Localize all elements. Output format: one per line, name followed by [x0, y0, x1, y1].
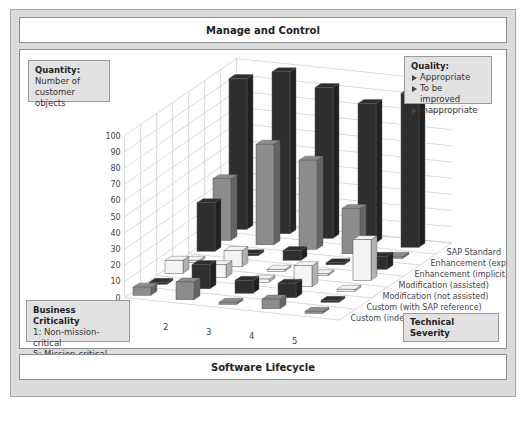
bars: [133, 68, 425, 314]
technical-severity-box: Technical Severity: [403, 313, 499, 342]
criticality-line1: 1: Non-mission-critical: [33, 327, 123, 349]
technical-severity-label: Technical Severity: [410, 317, 492, 339]
bar: [321, 296, 345, 302]
footer-title: Software Lifecycle: [211, 362, 315, 373]
y-tick-label: 10: [111, 277, 121, 286]
y-tick-label: 40: [111, 229, 121, 238]
y-tick-label: 20: [111, 261, 121, 270]
y-tick-label: 30: [111, 245, 121, 254]
quantity-line1: Number of: [35, 76, 103, 87]
bar: [283, 247, 307, 261]
series-label: Modification (assisted): [399, 281, 489, 290]
bar: [133, 283, 157, 295]
software-lifecycle-band: Software Lifecycle: [19, 354, 507, 380]
bar: [176, 278, 200, 300]
y-tick-label: 80: [111, 164, 121, 173]
quality-legend-box: Quality: Appropriate To be improved Inap…: [404, 56, 492, 104]
diagram-frame: Manage and Control 010203040506070809010…: [10, 9, 516, 397]
quality-item-to-be-improved: To be improved: [411, 83, 485, 105]
bar: [326, 259, 350, 265]
criticality-heading: Business Criticality: [33, 305, 123, 327]
quality-heading: Quality:: [411, 61, 485, 72]
y-tick-label: 100: [105, 132, 120, 141]
quantity-line2: customer objects: [35, 87, 103, 109]
chart-panel: 010203040506070809010012345Custom (indep…: [19, 49, 507, 349]
bar: [353, 236, 377, 281]
bar: [165, 256, 189, 273]
series-label: Enhancement (explicit): [431, 259, 507, 268]
bar: [299, 156, 323, 249]
bar: [219, 298, 243, 304]
series-label: Enhancement (implicit): [415, 270, 507, 279]
y-tick-label: 50: [111, 213, 121, 222]
header-title: Manage and Control: [206, 25, 320, 36]
x-category-label: 4: [249, 331, 254, 341]
series-label: SAP Standard: [447, 248, 501, 257]
quality-item-inappropriate: Inappropriate: [411, 105, 485, 116]
quality-item-appropriate: Appropriate: [411, 72, 485, 83]
x-category-label: 5: [292, 336, 297, 346]
series-label: Modification (not assisted): [383, 292, 489, 301]
x-category-label: 2: [163, 322, 168, 332]
bar: [337, 285, 361, 291]
y-tick-label: 90: [111, 148, 121, 157]
quantity-heading: Quantity:: [35, 65, 103, 76]
y-tick-label: 70: [111, 180, 121, 189]
y-tick-label: 60: [111, 196, 121, 205]
bar: [256, 140, 280, 244]
series-label: Custom (with SAP reference): [367, 303, 482, 312]
quantity-legend-box: Quantity: Number of customer objects: [28, 60, 110, 102]
bar: [235, 276, 259, 293]
bar: [262, 295, 286, 309]
bar: [197, 199, 221, 252]
bar: [305, 307, 329, 313]
business-criticality-box: Business Criticality 1: Non-mission-crit…: [26, 300, 130, 342]
bar: [267, 265, 291, 271]
x-category-label: 3: [206, 327, 211, 337]
manage-and-control-band: Manage and Control: [19, 17, 507, 43]
